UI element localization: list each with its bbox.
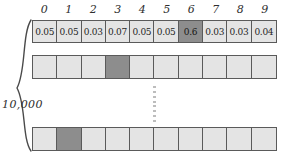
array-cell [57, 56, 81, 78]
array-cell [82, 128, 106, 150]
array-cell [33, 128, 57, 150]
column-header-5: 5 [155, 3, 180, 17]
array-cell: 0.03 [82, 21, 106, 42]
array-cell [33, 56, 57, 78]
array-cell: 0.07 [106, 21, 130, 42]
array-cell [203, 128, 227, 150]
array-cell: 0.03 [203, 21, 227, 42]
array-cell: 0.05 [57, 21, 81, 42]
array-cell [252, 56, 276, 78]
vertical-ellipsis-icon [149, 86, 159, 122]
array-cell: 0.05 [154, 21, 178, 42]
array-cell [130, 56, 154, 78]
array-cell: 0.04 [252, 21, 276, 42]
column-header-3: 3 [106, 3, 131, 17]
array-cell [106, 128, 130, 150]
array-cell-highlighted: 0.6 [179, 21, 203, 42]
column-header-0: 0 [32, 3, 57, 17]
array-cell [154, 128, 178, 150]
array-cell: 0.05 [130, 21, 154, 42]
array-cell [252, 128, 276, 150]
row-count-label: 10,000 [2, 98, 43, 111]
table-row [32, 55, 277, 79]
array-cell: 0.05 [33, 21, 57, 42]
column-header-7: 7 [204, 3, 229, 17]
array-cell [227, 56, 251, 78]
array-cell [179, 56, 203, 78]
column-header-4: 4 [130, 3, 155, 17]
array-cell-highlighted [106, 56, 130, 78]
array-cell [154, 56, 178, 78]
column-header-9: 9 [253, 3, 278, 17]
array-cell [82, 56, 106, 78]
table-row [32, 127, 277, 151]
array-cell [203, 56, 227, 78]
array-cell [130, 128, 154, 150]
column-header-1: 1 [57, 3, 82, 17]
array-cell-highlighted [57, 128, 81, 150]
array-cell [227, 128, 251, 150]
column-header-2: 2 [81, 3, 106, 17]
column-header-8: 8 [228, 3, 253, 17]
array-cell: 0.03 [227, 21, 251, 42]
array-cell [179, 128, 203, 150]
probability-array-diagram: 0 1 2 3 4 5 6 7 8 9 0.05 0.05 0.03 0.07 … [0, 0, 281, 162]
table-row: 0.05 0.05 0.03 0.07 0.05 0.05 0.6 0.03 0… [32, 20, 277, 43]
column-header-6: 6 [179, 3, 204, 17]
